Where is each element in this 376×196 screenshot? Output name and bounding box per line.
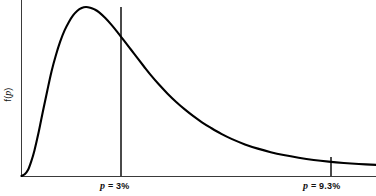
x-axis-label-mode: p = 3%: [100, 180, 129, 191]
y-axis-label: f(p): [0, 74, 16, 114]
density-curve: [22, 7, 376, 176]
density-figure: f(p) p = 3% p = 9.3%: [0, 0, 376, 196]
x-axis-label-upper-equals: =: [308, 181, 319, 191]
y-axis-label-variable: p: [2, 90, 13, 95]
x-axis-label-mode-equals: =: [105, 181, 116, 191]
x-axis-label-mode-value: 3%: [116, 181, 129, 191]
y-axis-label-text: f(p): [2, 87, 13, 101]
y-axis-label-suffix: ): [3, 87, 13, 90]
x-axis-label-upper-value: 9.3%: [319, 181, 340, 191]
x-axis-label-upper: p = 9.3%: [303, 180, 340, 191]
y-axis-label-prefix: f(: [3, 95, 13, 101]
density-chart-svg: [0, 0, 376, 196]
